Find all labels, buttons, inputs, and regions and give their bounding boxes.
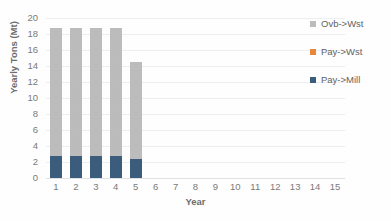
plot-area	[46, 18, 345, 178]
x-axis-tick-label: 11	[250, 181, 260, 192]
y-axis-tick-label: 16	[27, 45, 38, 55]
bar-segment[interactable]	[130, 159, 142, 178]
legend-swatch-icon	[310, 77, 316, 83]
bar-group[interactable]	[110, 18, 122, 178]
x-axis-tick-label: 9	[213, 181, 218, 192]
x-axis-tick-label: 12	[270, 181, 281, 192]
x-axis-tick-label: 5	[133, 181, 138, 192]
bar-group[interactable]	[90, 18, 102, 178]
y-axis-tick-labels: 02468101214161820	[0, 18, 42, 178]
y-axis-tick-label: 0	[33, 173, 38, 183]
x-axis-tick-label: 13	[290, 181, 301, 192]
gridline	[46, 178, 345, 179]
legend-item-label: Pay->Mill	[321, 75, 360, 85]
bar-segment[interactable]	[50, 28, 62, 157]
legend-item-label: Pay->Wst	[321, 47, 362, 57]
x-axis-tick-label: 4	[113, 181, 118, 192]
bar-group[interactable]	[50, 18, 62, 178]
bar-group[interactable]	[130, 18, 142, 178]
x-axis-tick-label: 6	[153, 181, 158, 192]
y-axis-tick-label: 8	[33, 109, 38, 119]
y-axis-tick-label: 18	[27, 29, 38, 39]
legend: Ovb->WstPay->WstPay->Mill	[310, 18, 390, 102]
legend-swatch-icon	[310, 49, 316, 55]
x-axis-tick-label: 15	[330, 181, 341, 192]
bar-segment[interactable]	[90, 28, 102, 157]
y-axis-tick-label: 12	[27, 77, 38, 87]
y-axis-tick-label: 10	[27, 93, 38, 103]
bar-group[interactable]	[70, 18, 82, 178]
y-axis-tick-label: 20	[27, 13, 38, 23]
bar-chart: Yearly Tons (Mt) 02468101214161820 12345…	[0, 0, 391, 221]
y-axis-tick-label: 4	[33, 141, 38, 151]
legend-item[interactable]: Ovb->Wst	[310, 18, 390, 30]
legend-item[interactable]: Pay->Mill	[310, 74, 390, 86]
x-axis-tick-label: 8	[193, 181, 198, 192]
x-axis-tick-label: 7	[173, 181, 178, 192]
y-axis-tick-label: 6	[33, 125, 38, 135]
x-axis-tick-label: 1	[53, 181, 58, 192]
y-axis-tick-label: 2	[33, 157, 38, 167]
bar-segment[interactable]	[50, 156, 62, 178]
bar-segment[interactable]	[110, 28, 122, 157]
bar-segment[interactable]	[130, 62, 142, 159]
x-axis-tick-labels: 123456789101112131415	[46, 181, 345, 195]
x-axis-tick-label: 10	[230, 181, 241, 192]
bar-segment[interactable]	[70, 156, 82, 178]
x-axis-tick-label: 14	[310, 181, 321, 192]
x-axis-title: Year	[46, 196, 345, 207]
legend-swatch-icon	[310, 21, 316, 27]
x-axis-tick-label: 2	[73, 181, 78, 192]
y-axis-tick-label: 14	[27, 61, 38, 71]
bar-segment[interactable]	[90, 156, 102, 178]
bar-segment[interactable]	[70, 28, 82, 157]
x-axis-tick-label: 3	[93, 181, 98, 192]
legend-item[interactable]: Pay->Wst	[310, 46, 390, 58]
legend-item-label: Ovb->Wst	[321, 19, 364, 29]
bar-segment[interactable]	[110, 156, 122, 178]
